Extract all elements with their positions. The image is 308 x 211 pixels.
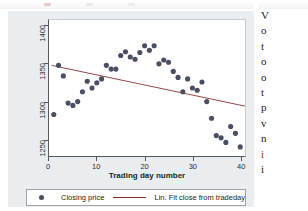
body-text-line: n [258,131,308,146]
body-text-line: o [258,54,308,69]
body-text-line: i [258,162,308,177]
body-text-line: t [258,39,308,54]
x-axis-title: Trading day number [48,171,246,180]
y-axis-tick-label: 1300 [39,102,48,119]
fit-line [51,65,245,106]
data-point-marker [209,116,214,121]
data-point-marker [85,79,90,84]
data-point-marker [228,124,233,129]
x-axis-tick [241,157,242,161]
data-point-marker [185,76,190,81]
data-point-marker [128,54,133,59]
data-point-marker [156,61,161,66]
scatter-chart-figure: 1250130013501400 010203040 Trading day n… [8,11,254,207]
data-point-marker [180,89,185,94]
x-axis-tick-label: 0 [46,162,50,171]
x-axis-tick-label: 20 [140,162,148,171]
body-text-line: V [258,8,308,23]
data-point-marker [94,80,99,85]
scan-mark-gray-2 [128,3,135,6]
x-axis-tick [145,157,146,161]
data-point-marker [61,73,66,78]
data-point-marker [99,76,104,81]
x-axis-tick-label: 40 [237,162,245,171]
x-axis-tick [193,157,194,161]
data-point-marker [104,63,109,68]
legend-label-closing-price: Closing price [61,193,104,202]
data-point-marker [89,85,94,90]
scan-mark-gray-1 [86,3,93,6]
data-point-marker [123,49,128,54]
data-point-marker [51,112,56,117]
data-point-marker [233,131,238,136]
y-axis: 1250130013501400 [8,19,48,157]
body-text-line: v [258,116,308,131]
y-axis-tick-label: 1400 [39,25,48,42]
data-point-marker [132,57,137,62]
data-point-marker [137,50,142,55]
body-text-line: o [258,23,308,38]
x-axis-tick [48,157,49,161]
data-point-marker [219,135,224,140]
data-point-marker [204,99,209,104]
data-point-marker [56,63,61,68]
data-point-marker [175,75,180,80]
legend-label-fit-line: Lin. Fit close from tradeday [155,193,245,202]
data-point-marker [109,67,114,72]
y-axis-tick-label: 1250 [39,140,48,157]
body-text-line: p [258,100,308,115]
data-point-marker [171,69,176,74]
data-point-marker [70,103,75,108]
plot-canvas [49,20,245,156]
body-text-line: t [258,85,308,100]
legend-entry-closing-price: Closing price [27,190,113,205]
data-point-marker [147,48,152,53]
x-axis-tick-label: 30 [189,162,197,171]
data-point-marker [80,89,85,94]
data-point-marker [118,53,123,58]
data-point-marker [238,144,243,149]
body-text-line: o [258,70,308,85]
legend-entry-fit-line: Lin. Fit close from tradeday [113,190,245,205]
x-axis-tick [96,157,97,161]
data-point-marker [75,99,80,104]
data-point-marker [113,67,118,72]
data-point-marker [199,79,204,84]
data-point-marker [190,85,195,90]
data-point-marker [223,140,228,145]
data-point-marker [214,133,219,138]
data-point-marker [66,101,71,106]
body-text-line: i [258,147,308,162]
scan-mark-red [44,3,51,6]
legend-marker-dot-icon [39,195,44,200]
legend-line-swatch-icon [113,197,146,198]
x-axis-tick-label: 10 [92,162,100,171]
data-point-marker [161,57,166,62]
data-point-marker [152,43,157,48]
data-point-marker [195,88,200,93]
body-text-column: Votootpvnii [258,8,308,211]
y-axis-tick-label: 1350 [39,63,48,80]
data-point-marker [166,60,171,65]
data-point-marker [142,43,147,48]
plot-area-frame [48,19,246,157]
chart-legend: Closing price Lin. Fit close from traded… [26,189,246,206]
